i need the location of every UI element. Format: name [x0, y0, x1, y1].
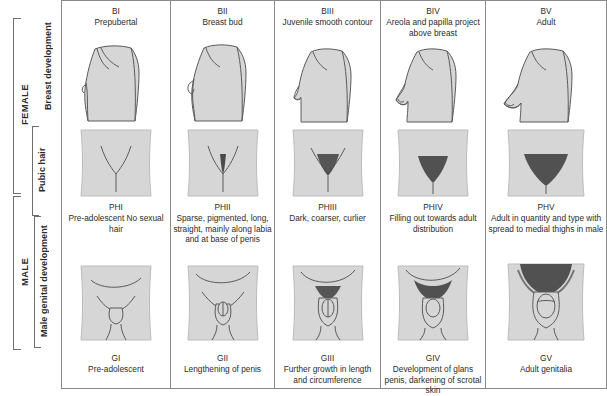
breast-caption-4-desc: Areola and papilla project above breast	[383, 17, 483, 38]
genital-figure-3	[275, 264, 380, 342]
stage-column-2[interactable]: BII Breast bud PHII Sparse, pigmented, l…	[171, 0, 274, 389]
genital-figure-5	[486, 262, 606, 342]
breast-figure-3	[275, 48, 380, 124]
breast-figure-1	[62, 43, 170, 123]
pubic-caption-4-stage: PHIV	[383, 202, 483, 213]
pubic-caption-2-stage: PHII	[173, 202, 272, 213]
row-label-male-genital-development: Male genital development	[40, 216, 52, 346]
breast-caption-2-stage: BII	[173, 6, 272, 17]
genital-caption-3-stage: GIII	[277, 353, 378, 364]
breast-caption-1-desc: Prepubertal	[64, 17, 168, 28]
pubic-figure-2	[171, 128, 274, 198]
pubic-caption-3-desc: Dark, coarser, curlier	[277, 213, 378, 224]
genital-caption-1-stage: GI	[64, 353, 168, 364]
pubic-caption-3-stage: PHIII	[277, 202, 378, 213]
genital-figure-2	[171, 264, 274, 342]
pubic-caption-5-desc: Adult in quantity and type with spread t…	[488, 213, 604, 234]
row-label-pubic-hair: Pubic hair	[38, 126, 50, 214]
genital-caption-5-stage: GV	[488, 353, 604, 364]
breast-caption-5-desc: Adult	[488, 17, 604, 28]
genital-caption-4-desc: Development of glans penis, darkening of…	[383, 364, 483, 396]
genital-caption-1-desc: Pre-adolescent	[64, 364, 168, 375]
breast-figure-4	[381, 48, 485, 124]
genital-caption-3-desc: Further growth in length and circumferen…	[277, 364, 378, 385]
pubic-caption-2-desc: Sparse, pigmented, long, straight, mainl…	[173, 213, 272, 245]
genital-caption-2-stage: GII	[173, 353, 272, 364]
genital-figure-1	[62, 264, 170, 342]
breast-caption-3-desc: Juvenile smooth contour	[277, 17, 378, 28]
genital-caption-5-desc: Adult genitalia	[488, 364, 604, 375]
pubic-caption-1-desc: Pre-adolescent No sexual hair	[64, 213, 168, 234]
female-group-label: FEMALE	[20, 18, 32, 192]
male-group-label: MALE	[20, 196, 32, 348]
genital-figure-4	[381, 264, 485, 342]
breast-caption-1-stage: BI	[64, 6, 168, 17]
pubic-figure-1	[62, 128, 170, 198]
breast-figure-2	[171, 43, 274, 123]
pubic-caption-1-stage: PHI	[64, 202, 168, 213]
stage-column-3[interactable]: BIII Juvenile smooth contour PHIII Dark,…	[275, 0, 380, 389]
breast-caption-4-stage: BIV	[383, 6, 483, 17]
stage-column-4[interactable]: BIV Areola and papilla project above bre…	[381, 0, 485, 389]
pubic-figure-3	[275, 128, 380, 198]
stage-column-5[interactable]: BV Adult PHV Adult in quantity and type …	[486, 0, 606, 389]
stage-grid: BI Prepubertal PHI Pre-adolescent No sex…	[61, 0, 607, 389]
pubic-figure-4	[381, 128, 485, 198]
stage-column-1[interactable]: BI Prepubertal PHI Pre-adolescent No sex…	[62, 0, 170, 389]
pubic-caption-5-stage: PHV	[488, 202, 604, 213]
breast-caption-2-desc: Breast bud	[173, 17, 272, 28]
pubic-figure-5	[486, 128, 606, 198]
breast-caption-3-stage: BIII	[277, 6, 378, 17]
genital-caption-2-desc: Lengthening of penis	[173, 364, 272, 375]
breast-caption-5-stage: BV	[488, 6, 604, 17]
row-label-breast-development: Breast development	[44, 8, 56, 124]
pubic-caption-4-desc: Filling out towards adult distribution	[383, 213, 483, 234]
breast-figure-5	[486, 48, 606, 124]
genital-caption-4-stage: GIV	[383, 353, 483, 364]
